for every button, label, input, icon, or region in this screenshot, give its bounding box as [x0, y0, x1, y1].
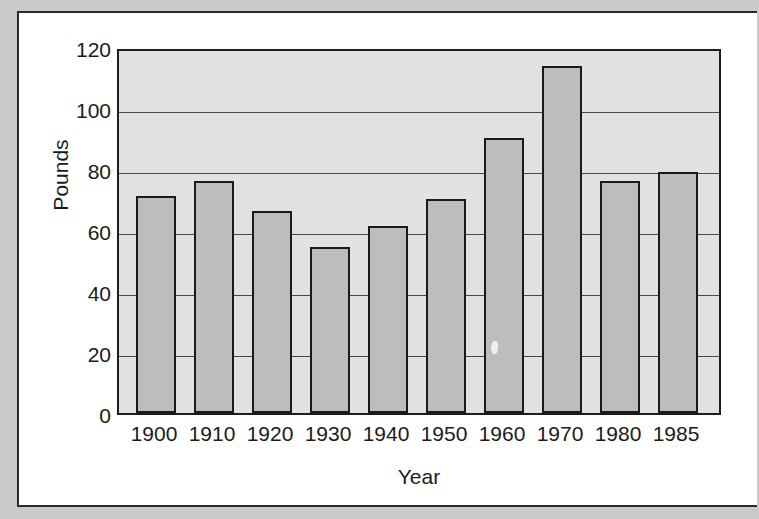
bar-1980: [600, 181, 640, 413]
figure-frame: 120 100 80 60 40 20 0 Pounds: [17, 11, 757, 507]
bar-series: [119, 51, 719, 413]
bar-1900: [136, 196, 176, 413]
bar-1930: [310, 247, 350, 413]
bar-1940: [368, 226, 408, 413]
bar-1960: [484, 138, 524, 413]
y-tick-label: 20: [41, 344, 111, 365]
bar-1970: [542, 66, 582, 413]
x-axis-title: Year: [117, 465, 721, 489]
bar-1950: [426, 199, 466, 413]
bar-1985: [658, 172, 698, 413]
bar-1910: [194, 181, 234, 413]
y-tick-label: 0: [41, 405, 111, 426]
y-axis-title: Pounds: [49, 115, 73, 235]
bar-chart: 120 100 80 60 40 20 0 Pounds: [19, 13, 759, 509]
x-tick-label: 1985: [636, 423, 716, 444]
y-tick-label: 40: [41, 283, 111, 304]
bar-1920: [252, 211, 292, 413]
y-tick-label: 120: [41, 39, 111, 60]
x-axis-tick-labels: 1900 1910 1920 1930 1940 1950 1960 1970 …: [117, 423, 721, 453]
scan-artifact: [491, 341, 498, 354]
plot-area: [117, 49, 721, 415]
